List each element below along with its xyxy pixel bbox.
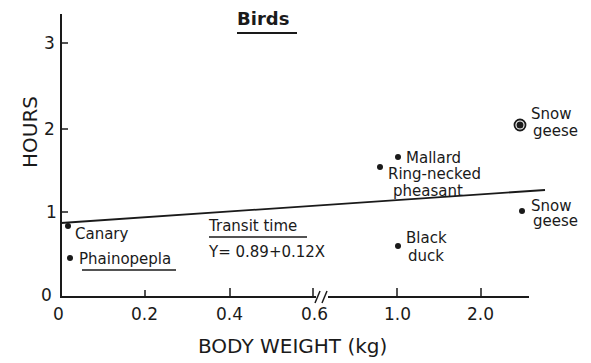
- x-tick-label: 2.0: [467, 304, 494, 324]
- y-tick-label: 0: [41, 285, 52, 305]
- x-axis-label: BODY WEIGHT (kg): [198, 334, 387, 358]
- label-pheasant-line1: Ring-necked: [388, 165, 481, 183]
- x-tick-label: 0: [53, 304, 64, 324]
- point-phainopepla: [67, 255, 73, 261]
- x-tick-label: 0.6: [301, 304, 328, 324]
- point-snow-geese: [519, 208, 525, 214]
- chart: 3 2 1 0 0 0.2 0.4 0.6 1.0 2.0 BODY WEIGH…: [0, 0, 591, 363]
- label-snow-geese-lower-2: geese: [533, 212, 578, 230]
- label-pheasant-line2: pheasant: [393, 182, 463, 200]
- chart-title: Birds: [237, 8, 289, 29]
- y-axis-label: HOURS: [18, 96, 42, 168]
- x-tick-label: 0.4: [216, 304, 243, 324]
- regression-equation: Y= 0.89+0.12X: [208, 243, 325, 261]
- label-snow-geese-upper-1: Snow: [531, 105, 571, 123]
- point-black-duck: [395, 243, 401, 249]
- x-tick-label: 1.0: [384, 304, 411, 324]
- y-tick-label: 2: [44, 119, 55, 139]
- y-tick-label: 1: [46, 202, 57, 222]
- label-canary: Canary: [75, 225, 129, 243]
- regression-line: [61, 190, 545, 223]
- label-black-duck-line2: duck: [408, 247, 444, 265]
- regression-label: Transit time: [208, 217, 297, 235]
- label-black-duck-line1: Black: [406, 229, 447, 247]
- x-tick-label: 0.2: [131, 304, 158, 324]
- y-tick-label: 3: [44, 33, 55, 53]
- point-ring-necked-pheasant: [377, 164, 383, 170]
- label-snow-geese-upper-2: geese: [533, 122, 578, 140]
- point-snow-geese-circled: [515, 120, 526, 131]
- label-phainopepla: Phainopepla: [79, 250, 171, 268]
- point-canary: [65, 223, 71, 229]
- point-mallard: [395, 154, 401, 160]
- axis-break-icon: [315, 290, 328, 304]
